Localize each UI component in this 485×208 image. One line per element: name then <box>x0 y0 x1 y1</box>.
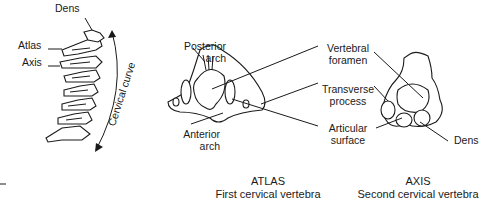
label-axis: Axis <box>22 56 42 68</box>
label-atlas: Atlas <box>18 39 41 51</box>
caption-atlas-subtitle: First cervical vertebra <box>198 188 338 201</box>
label-vertebral-foramen: Vertebral foramen <box>318 42 378 66</box>
caption-atlas: ATLAS First cervical vertebra <box>198 175 338 201</box>
caption-axis-title: AXIS <box>348 175 485 188</box>
caption-axis-subtitle: Second cervical vertebra <box>348 188 485 201</box>
label-transverse-process: Transverse process <box>318 83 378 107</box>
label-dens-spine: Dens <box>55 2 80 14</box>
cervical-spine-illustration <box>46 30 104 142</box>
caption-atlas-title: ATLAS <box>198 175 338 188</box>
axis-vertebra-illustration <box>381 52 442 127</box>
label-dens-axis: Dens <box>454 134 479 146</box>
label-anterior-arch: Anterior arch <box>176 128 220 152</box>
label-articular-surface: Articular surface <box>318 122 378 146</box>
label-posterior-arch: Posterior arch <box>182 40 226 64</box>
caption-axis: AXIS Second cervical vertebra <box>348 175 485 201</box>
